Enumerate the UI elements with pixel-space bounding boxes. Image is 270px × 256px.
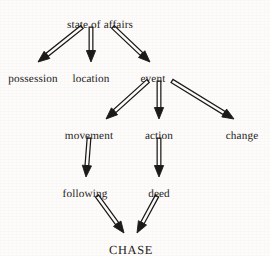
edge-soa-possession — [38, 26, 83, 62]
edge-following-chase — [96, 195, 124, 233]
paper-grain-overlay — [0, 0, 270, 256]
node-state-of-affairs: state of affairs — [67, 19, 133, 31]
edge-event-change — [171, 79, 234, 119]
taxonomy-diagram: state of affairspossessionlocationeventm… — [0, 0, 270, 256]
node-location: location — [72, 73, 109, 85]
edge-soa-location — [86, 27, 95, 62]
edge-event-action — [154, 81, 163, 119]
edge-deed-chase — [137, 195, 159, 233]
edge-event-movement — [106, 80, 149, 119]
edge-action-deed — [154, 138, 163, 177]
node-movement: movement — [65, 130, 113, 142]
arrow-layer — [0, 0, 270, 256]
edge-movement-following — [82, 138, 91, 177]
node-following: following — [63, 188, 108, 200]
edge-soa-event — [112, 26, 150, 62]
node-change: change — [226, 130, 259, 142]
node-event: event — [141, 73, 166, 85]
node-chase: CHASE — [109, 244, 153, 256]
node-action: action — [145, 130, 173, 142]
node-possession: possession — [8, 73, 57, 85]
node-deed: deed — [148, 188, 170, 200]
